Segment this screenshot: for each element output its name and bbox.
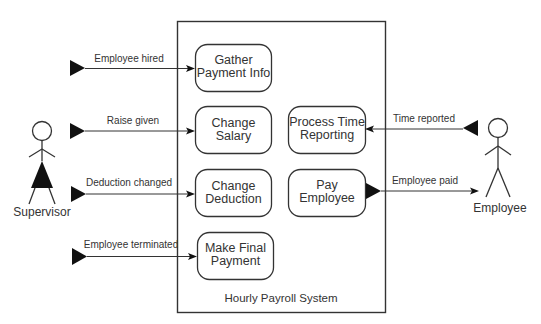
trigger-triangle-icon bbox=[70, 123, 85, 139]
trigger-triangle-icon bbox=[71, 186, 86, 202]
use-case-change-deduction[interactable]: Change Deduction bbox=[196, 170, 272, 217]
use-case-label-line2: Reporting bbox=[300, 128, 354, 142]
use-case-label-line2: Payment Info bbox=[197, 66, 271, 80]
system-label: Hourly Payroll System bbox=[224, 292, 337, 304]
trigger-triangle-icon bbox=[72, 248, 87, 265]
flow-employee-terminated: Employee terminated bbox=[72, 239, 197, 265]
use-case-change-salary[interactable]: Change Salary bbox=[196, 107, 272, 154]
trigger-triangle-icon bbox=[366, 183, 381, 199]
use-case-label-line1: Process Time bbox=[289, 115, 365, 129]
use-case-gather-payment-info[interactable]: Gather Payment Info bbox=[196, 45, 272, 92]
flow-label: Employee hired bbox=[94, 53, 163, 64]
actor-label: Employee bbox=[473, 201, 527, 215]
trigger-triangle-icon bbox=[463, 120, 478, 136]
use-case-label-line1: Gather bbox=[214, 53, 252, 67]
use-case-label-line1: Change bbox=[212, 179, 256, 193]
stick-figure-icon bbox=[485, 119, 511, 198]
use-case-label-line2: Deduction bbox=[205, 192, 261, 206]
flow-raise-given: Raise given bbox=[70, 115, 195, 139]
use-case-label-line2: Employee bbox=[299, 191, 355, 205]
trigger-triangle-icon bbox=[70, 60, 85, 76]
flow-label: Employee paid bbox=[392, 175, 458, 186]
use-case-pay-employee[interactable]: Pay Employee bbox=[289, 170, 366, 217]
use-case-label-line2: Payment bbox=[211, 254, 261, 268]
flow-employee-paid: Employee paid bbox=[366, 175, 479, 199]
use-case-make-final-payment[interactable]: Make Final Payment bbox=[198, 233, 274, 280]
stick-figure-dress-icon bbox=[29, 122, 55, 205]
flow-employee-hired: Employee hired bbox=[70, 53, 195, 76]
flow-time-reported: Time reported bbox=[365, 113, 478, 136]
flow-label: Employee terminated bbox=[84, 239, 179, 250]
flow-deduction-changed: Deduction changed bbox=[71, 177, 195, 202]
use-case-label-line1: Pay bbox=[316, 178, 338, 192]
use-case-label-line1: Make Final bbox=[205, 241, 266, 255]
actor-label: Supervisor bbox=[13, 205, 70, 219]
flow-label: Time reported bbox=[393, 113, 455, 124]
use-case-process-time-reporting[interactable]: Process Time Reporting bbox=[289, 107, 366, 154]
use-case-diagram: Hourly Payroll System Gather Payment Inf… bbox=[0, 0, 541, 324]
use-case-label-line1: Change bbox=[212, 116, 256, 130]
flow-label: Raise given bbox=[107, 115, 159, 126]
actor-employee[interactable]: Employee bbox=[473, 119, 527, 216]
use-case-label-line2: Salary bbox=[216, 129, 252, 143]
actor-supervisor[interactable]: Supervisor bbox=[13, 122, 70, 220]
flow-label: Deduction changed bbox=[86, 177, 172, 188]
